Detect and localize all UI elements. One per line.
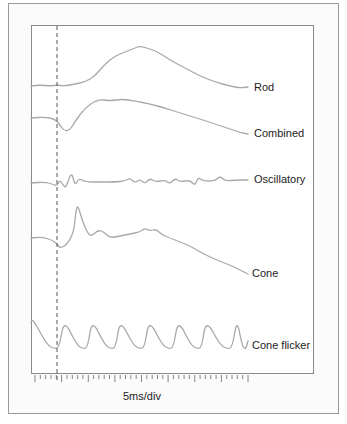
label-oscillatory: Oscillatory: [254, 173, 305, 185]
label-rod: Rod: [254, 81, 274, 93]
label-cone-flicker: Cone flicker: [252, 339, 310, 351]
trace-rod: [31, 47, 248, 88]
label-combined: Combined: [254, 127, 304, 139]
traces-canvas: [0, 0, 347, 424]
trace-combined: [31, 100, 248, 135]
trace-oscillatory: [31, 175, 248, 187]
label-cone: Cone: [252, 267, 278, 279]
trace-cone: [31, 207, 248, 274]
trace-cone-flicker: [31, 320, 248, 348]
x-axis-ticks: [35, 375, 248, 382]
x-axis-label: 5ms/div: [123, 390, 161, 402]
